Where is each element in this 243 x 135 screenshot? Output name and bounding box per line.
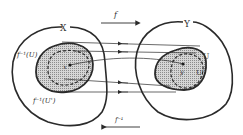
label-point-x: x: [63, 63, 67, 71]
point-y: [181, 62, 184, 65]
label-preimage-u-prime: f⁻¹(U'): [32, 97, 56, 105]
mapping-arrow-4: [120, 83, 128, 84]
label-inverse-f: f⁻¹: [114, 116, 123, 124]
mapping-line-1: [62, 42, 200, 46]
label-forward-f: f: [113, 10, 119, 19]
label-u: U: [203, 52, 209, 61]
preimage-diagram: X Y f⁻¹(U) f⁻¹(U') U U' x y f f⁻¹: [0, 0, 243, 135]
label-point-y: y: [179, 68, 184, 76]
point-x: [68, 63, 71, 66]
label-set-x: X: [60, 23, 67, 33]
label-u-prime: U': [196, 69, 204, 77]
label-set-y: Y: [183, 19, 191, 29]
label-preimage-u: f⁻¹(U): [16, 51, 38, 59]
